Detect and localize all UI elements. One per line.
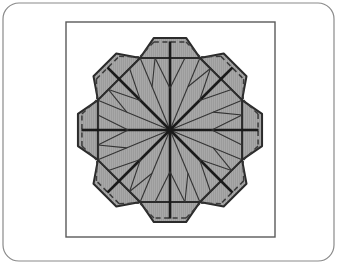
octagonal-fold-diagram — [0, 0, 337, 264]
diagram-canvas — [0, 0, 337, 264]
center-node — [168, 128, 171, 131]
pinwheel-center-node — [168, 128, 171, 131]
